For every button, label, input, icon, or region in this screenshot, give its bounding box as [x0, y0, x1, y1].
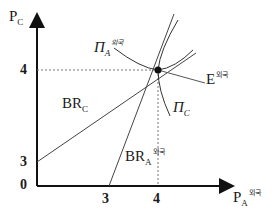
- pi-a-curve: [114, 48, 193, 70]
- x-axis-label: PA외국: [233, 190, 261, 208]
- y-tick-4: 4: [20, 63, 27, 77]
- equilibrium-point: [155, 67, 162, 74]
- pi-a-label: ΠA외국: [94, 40, 123, 58]
- e-pointer-line: [158, 70, 205, 83]
- y-axis-label: PC: [9, 9, 23, 27]
- equilibrium-label: E외국: [206, 72, 228, 87]
- br-a-label: BRA외국: [125, 149, 165, 167]
- y-tick-3: 3: [20, 155, 27, 169]
- origin-label: 0: [20, 178, 27, 192]
- x-tick-3: 3: [102, 192, 109, 206]
- x-tick-4: 4: [153, 192, 160, 206]
- pi-c-label: ΠC: [173, 100, 190, 118]
- diagram-canvas: [0, 0, 274, 216]
- br-c-label: BRC: [62, 96, 88, 114]
